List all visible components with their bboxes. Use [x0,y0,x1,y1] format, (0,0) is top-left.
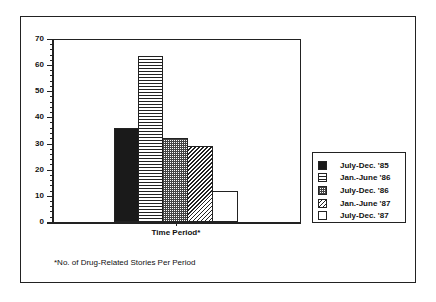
legend: July-Dec. '85 Jan.-June '86 July-Dec. '8… [312,152,406,223]
legend-item: July-Dec. '86 [318,184,405,197]
y-minor-tick [50,96,52,97]
y-minor-tick [50,81,52,82]
x-axis [47,222,301,224]
y-tick-70 [47,39,52,40]
y-minor-tick [50,185,52,186]
y-minor-tick [50,159,52,160]
y-label: 60 [20,61,44,69]
y-minor-tick [50,49,52,50]
y-minor-tick [50,75,52,76]
y-minor-tick [50,211,52,212]
y-minor-tick [50,112,52,113]
y-minor-tick [50,128,52,129]
legend-label: Jan.-June '86 [340,173,390,182]
y-label: 20 [20,166,44,174]
y-tick-50 [47,91,52,92]
y-label: 0 [20,218,44,226]
bar-jan-june-86 [138,56,163,222]
y-minor-tick [50,175,52,176]
y-minor-tick [50,191,52,192]
y-minor-tick [50,149,52,150]
legend-label: July-Dec. '87 [340,211,389,220]
legend-swatch-white-icon [318,211,327,220]
legend-item: July-Dec. '87 [318,209,405,222]
y-tick-30 [47,144,52,145]
y-tick-10 [47,196,52,197]
y-label: 10 [20,192,44,200]
legend-item: Jan.-June '87 [318,197,405,210]
y-tick-60 [47,65,52,66]
y-minor-tick [50,44,52,45]
y-minor-tick [50,206,52,207]
y-minor-tick [50,55,52,56]
bar-july-dec-87 [212,191,238,222]
y-minor-tick [50,122,52,123]
footnote: *No. of Drug-Related Stories Per Period [54,258,195,267]
y-minor-tick [50,164,52,165]
y-label: 70 [20,35,44,43]
y-minor-tick [50,180,52,181]
y-axis [52,39,54,223]
legend-label: Jan.-June '87 [340,199,390,208]
y-label: 40 [20,113,44,121]
legend-swatch-solid-icon [318,161,327,170]
y-minor-tick [50,70,52,71]
legend-item: Jan.-June '86 [318,172,405,185]
y-minor-tick [50,86,52,87]
legend-swatch-diagonal-icon [318,199,327,208]
y-minor-tick [50,60,52,61]
bar-jan-june-87 [187,146,213,222]
y-minor-tick [50,154,52,155]
y-minor-tick [50,217,52,218]
bar-july-dec-86 [162,138,188,222]
legend-item: July-Dec. '85 [318,159,405,172]
legend-swatch-grid-icon [318,186,327,195]
y-label: 50 [20,87,44,95]
y-label: 30 [20,140,44,148]
y-tick-20 [47,170,52,171]
y-minor-tick [50,133,52,134]
x-tick [176,222,177,226]
y-minor-tick [50,102,52,103]
y-minor-tick [50,201,52,202]
y-tick-40 [47,117,52,118]
legend-label: July-Dec. '85 [340,161,389,170]
legend-swatch-hlines-icon [318,173,327,182]
y-minor-tick [50,107,52,108]
x-axis-label: Time Period* [100,228,252,237]
legend-label: July-Dec. '86 [340,186,389,195]
y-minor-tick [50,138,52,139]
bar-july-dec-85 [114,128,139,222]
